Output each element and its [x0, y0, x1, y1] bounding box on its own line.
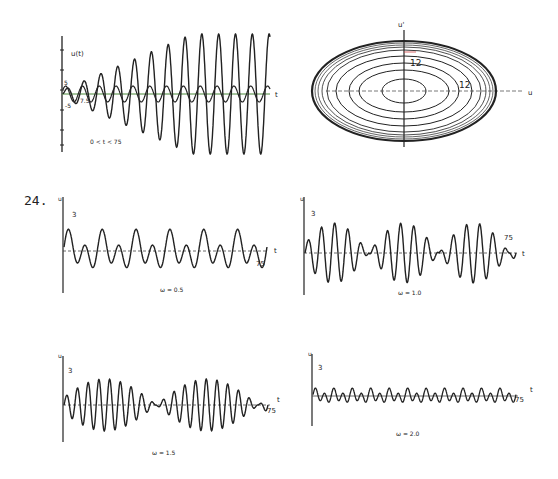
y-axis-label: u'	[398, 21, 404, 29]
omega-caption: ω = 2.0	[396, 430, 420, 437]
y-axis-label: u	[58, 352, 62, 359]
chart-omega-1-5: u 3 t 75 ω = 1.5	[55, 352, 295, 462]
y-tick-lower: -5	[65, 102, 71, 109]
chart-omega-0-5: u 3 t 75 ω = 0.5	[55, 195, 285, 305]
y-tick-upper: 5	[64, 79, 68, 86]
y-tick-label: 3	[72, 211, 76, 219]
x-end-label: 75	[515, 396, 524, 404]
y-axis-label: u	[300, 195, 304, 202]
x-tick-mark: 7.5	[80, 97, 90, 104]
chart-phase-plane: u' u 12 12	[300, 15, 550, 155]
problem-number: 24.	[24, 193, 47, 208]
chart-growing-oscillation: u(t) 5 -5 7.5 t 0 < t < 75	[55, 30, 285, 160]
x-end-label: 75	[267, 407, 276, 415]
omega-caption: ω = 0.5	[160, 286, 184, 293]
x-end-label: 75	[504, 234, 513, 242]
x-axis-label: t	[277, 396, 280, 404]
y-axis-label: u	[308, 352, 312, 357]
y-tick-label: 3	[68, 367, 72, 375]
y-tick-label: 3	[318, 364, 322, 372]
contour-label-right: 12	[459, 80, 470, 90]
omega-caption: ω = 1.5	[152, 449, 176, 456]
time-range-annotation: 0 < t < 75	[90, 138, 122, 145]
contour-label-upper: 12	[410, 58, 421, 68]
x-axis-label: t	[522, 250, 525, 258]
chart-omega-1-0: u 3 t 75 ω = 1.0	[298, 195, 538, 305]
omega-caption: ω = 1.0	[398, 289, 422, 296]
x-axis-label: t	[275, 91, 278, 99]
y-axis-label: u(t)	[71, 50, 84, 58]
x-end-label: 75	[256, 260, 265, 268]
y-tick-label: 3	[311, 210, 315, 218]
x-axis-label: u	[528, 89, 532, 97]
y-axis-label: u	[58, 195, 62, 202]
chart-omega-2-0: u 3 t 75 ω = 2.0	[308, 352, 548, 452]
x-axis-label: t	[530, 386, 533, 394]
x-axis-label: t	[274, 247, 277, 255]
